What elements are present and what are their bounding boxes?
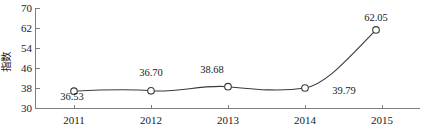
- x-tick-label-2011: 2011: [63, 114, 85, 126]
- y-tick-label-46: 46: [21, 62, 33, 74]
- y-tick-label-70: 70: [21, 2, 33, 14]
- y-tick-label-54: 54: [21, 42, 33, 54]
- data-label-2012: 36.70: [139, 67, 163, 78]
- x-tick-label-2015: 2015: [371, 114, 394, 126]
- series-line-index: [74, 30, 376, 91]
- line-chart: 30 38 46 54 62 70 指数 2011 2012 2013 2014…: [0, 0, 424, 133]
- data-point-2015: [373, 27, 380, 34]
- data-label-2011: 36.53: [60, 91, 84, 102]
- data-point-2013: [225, 83, 232, 90]
- y-axis-title: 指数: [0, 51, 12, 72]
- y-tick-label-62: 62: [21, 22, 32, 34]
- x-tick-label-2013: 2013: [217, 114, 240, 126]
- x-tick-label-2014: 2014: [294, 114, 317, 126]
- data-label-2013: 38.68: [200, 64, 224, 75]
- chart-canvas: 30 38 46 54 62 70 指数 2011 2012 2013 2014…: [0, 0, 424, 133]
- data-label-2015: 62.05: [364, 12, 388, 23]
- y-tick-label-30: 30: [21, 102, 33, 114]
- x-tick-label-2012: 2012: [140, 114, 162, 126]
- data-label-2014: 39.79: [332, 85, 356, 96]
- y-tick-label-38: 38: [21, 82, 33, 94]
- data-point-2014: [302, 85, 309, 92]
- data-point-2012: [148, 88, 155, 95]
